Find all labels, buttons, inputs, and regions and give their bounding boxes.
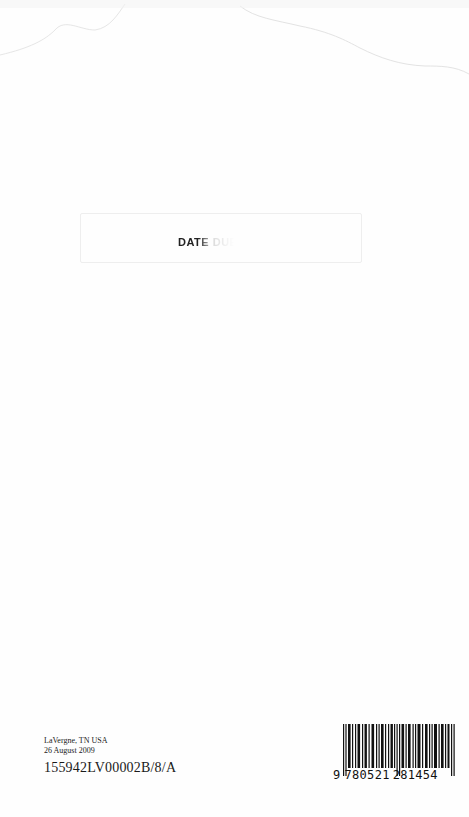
barcode-left-group: 780521 xyxy=(345,768,390,782)
isbn-barcode: 9780521281454 xyxy=(333,724,458,784)
barcode-right-group: 281454 xyxy=(393,768,438,782)
barcode-lead-digit: 9 xyxy=(333,768,341,782)
print-date: 26 August 2009 xyxy=(44,746,176,756)
book-back-page: DATE DUE LaVergne, TN USA 26 August 2009… xyxy=(0,0,469,817)
printer-imprint: LaVergne, TN USA 26 August 2009 155942LV… xyxy=(44,736,176,776)
barcode-digits: 9780521281454 xyxy=(333,768,438,782)
print-location: LaVergne, TN USA xyxy=(44,736,176,746)
paper-curl-edge xyxy=(0,0,469,80)
print-batch-code: 155942LV00002B/8/A xyxy=(44,760,176,776)
date-due-stamp-text: DATE DUE xyxy=(178,236,258,248)
